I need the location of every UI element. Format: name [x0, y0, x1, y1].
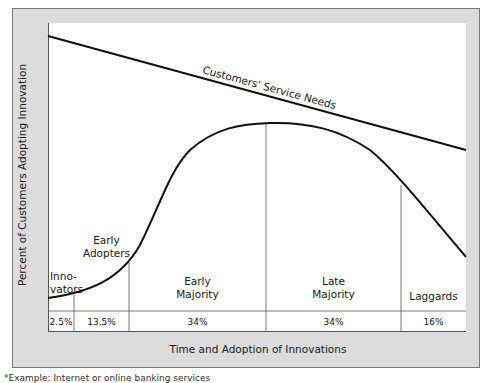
- pct-late-majority: 34%: [266, 317, 401, 327]
- pct-early-adopters: 13.5%: [74, 317, 129, 327]
- label-early-adopters: Early Adopters: [74, 234, 139, 260]
- pct-laggards: 16%: [401, 317, 466, 327]
- pct-early-majority: 34%: [129, 317, 266, 327]
- pct-innovators: 2.5%: [48, 317, 74, 327]
- label-innovators: Inno- vators: [50, 270, 76, 296]
- label-late-majority: Late Majority: [266, 275, 401, 301]
- label-early-majority: Early Majority: [129, 275, 266, 301]
- adoption-curve: [48, 123, 466, 298]
- y-axis-label: Percent of Customers Adopting Innovation: [16, 64, 28, 286]
- footnote: *Example: Internet or online banking ser…: [4, 373, 210, 383]
- service-needs-label: Customers' Service Needs: [201, 63, 337, 111]
- service-needs-line: [48, 36, 466, 150]
- label-laggards: Laggards: [401, 290, 466, 303]
- x-axis-label: Time and Adoption of Innovations: [48, 343, 468, 355]
